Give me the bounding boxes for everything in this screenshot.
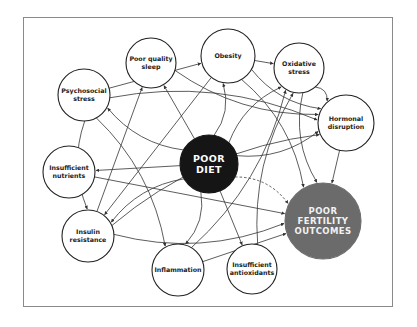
node-label-poor-fertility: POOR FERTILITY OUTCOMES <box>285 183 361 259</box>
node-label-insulin-resistance: Insulin resistance <box>62 210 114 262</box>
edge-poor-diet-to-hormonal-disruption <box>237 131 318 156</box>
node-label-insufficient-antioxidants: Insufficient antioxidants <box>227 244 277 294</box>
edge-poor-diet-to-obesity <box>214 84 226 136</box>
edge-poor-diet-to-insufficient-antioxidants <box>220 191 242 245</box>
edge-poor-diet-to-inflammation <box>186 192 202 244</box>
edge-obesity-to-oxidative-stress <box>255 60 274 63</box>
edge-obesity-to-poor-fertility <box>241 79 303 187</box>
node-label-hormonal-disruption: Hormonal disruption <box>318 95 374 151</box>
node-label-poor-diet: POOR DIET <box>180 135 238 193</box>
node-label-poor-sleep: Poor quality sleep <box>126 38 176 88</box>
edge-poor-diet-to-poor-fertility <box>235 177 288 204</box>
edge-poor-diet-to-insufficient-nutrients <box>96 166 180 171</box>
node-label-insufficient-nutrients: Insufficient nutrients <box>43 146 95 198</box>
edge-poor-diet-to-psychosocial-stress <box>108 108 184 150</box>
node-label-psychosocial-stress: Psychosocial stress <box>58 69 110 121</box>
edge-hormonal-disruption-to-poor-fertility <box>332 150 340 183</box>
node-label-obesity: Obesity <box>201 29 255 83</box>
node-label-oxidative-stress: Oxidative stress <box>274 43 324 93</box>
edge-poor-diet-to-insulin-resistance <box>111 179 184 222</box>
node-label-inflammation: Inflammation <box>152 244 204 296</box>
edge-poor-diet-to-poor-sleep <box>164 86 195 139</box>
